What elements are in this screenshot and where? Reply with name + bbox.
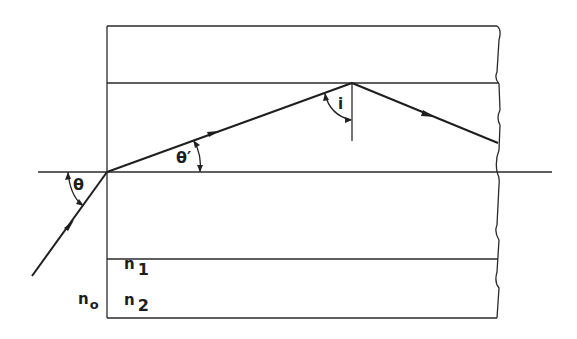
theta-prime-label: θ′: [176, 150, 191, 166]
arc-arrow-icon: [193, 140, 200, 148]
n1-base: n: [124, 255, 135, 273]
arrow-icon: [421, 110, 435, 117]
arc-arrow-icon: [345, 117, 352, 123]
incidence-angle-label: i: [338, 97, 343, 112]
theta-label: θ: [73, 177, 84, 193]
n0-label: no: [78, 292, 99, 307]
n1-subscript: 1: [138, 260, 149, 279]
waveguide-diagram: [0, 0, 577, 339]
n2-label: n2: [124, 292, 149, 308]
arrow-icon: [207, 131, 219, 137]
n1-label: n1: [124, 256, 149, 272]
n2-base: n: [124, 291, 135, 309]
arc-arrow-icon: [65, 172, 71, 180]
n0-base: n: [78, 290, 89, 308]
refracted-ray: [107, 83, 352, 172]
arc-arrow-icon: [197, 165, 203, 172]
n2-subscript: 2: [138, 296, 149, 315]
n0-subscript: o: [90, 297, 99, 312]
